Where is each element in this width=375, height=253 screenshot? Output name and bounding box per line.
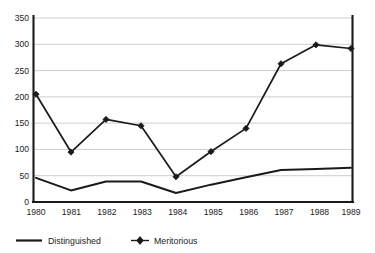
x-tick-label: 1985 [204,207,223,217]
y-tick-label: 350 [15,13,30,23]
y-tick-label: 100 [15,144,30,154]
y-tick-label: 0 [24,197,29,207]
x-tick-label: 1984 [168,207,187,217]
y-tick-label: 250 [15,66,30,76]
x-tick-label: 1981 [62,207,81,217]
x-tick-label: 1987 [275,207,294,217]
legend-label-distinguished: Distinguished [48,236,101,246]
y-tick-label: 300 [15,39,30,49]
x-tick-label: 1988 [310,207,329,217]
line-chart-figure: 350 300 250 200 150 100 50 0 1980 1981 1… [0,0,375,253]
x-tick-label: 1980 [26,207,45,217]
chart-canvas: 350 300 250 200 150 100 50 0 1980 1981 1… [0,0,375,253]
y-tick-label: 50 [19,171,29,181]
x-tick-label: 1982 [97,207,116,217]
y-tick-label: 150 [15,118,30,128]
legend-label-meritorious: Meritorious [154,236,198,246]
x-tick-label: 1983 [133,207,152,217]
x-tick-label: 1989 [341,207,360,217]
y-tick-label: 200 [15,92,30,102]
x-tick-label: 1986 [239,207,258,217]
